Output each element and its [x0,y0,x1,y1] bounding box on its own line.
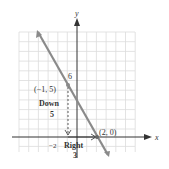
point-a [66,83,70,87]
line-arrow-bottom-icon [104,151,110,157]
chart-canvas: x y 6 (−1, 5) (2, 0) Down 5 −2 Right 3 [0,0,169,169]
tick-y-6: 6 [68,72,72,81]
right-label: Right [64,141,83,150]
tick-x-m2: −2 [49,142,57,150]
y-axis-arrow-icon [74,18,80,26]
point-a-label: (−1, 5) [34,85,56,94]
down-label: Down [39,99,60,108]
down-value: 5 [50,110,54,119]
point-b-label: (2, 0) [99,128,117,137]
right-value: 3 [73,151,77,160]
x-axis-arrow-icon [144,134,152,140]
x-axis-label: x [154,133,159,142]
y-axis-label: y [74,9,79,18]
